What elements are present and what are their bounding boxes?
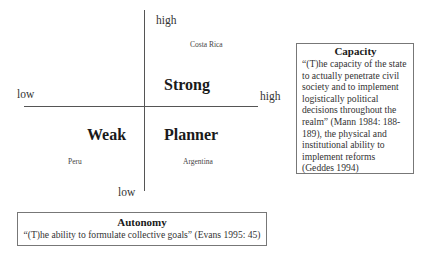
horizontal-axis-low-label: low (17, 88, 34, 100)
vertical-axis-high-label: high (156, 14, 176, 26)
autonomy-definition-text: “(T)he ability to formulate collective g… (22, 229, 262, 241)
horizontal-axis-line (24, 106, 258, 107)
capacity-title: Capacity (302, 45, 409, 58)
country-peru: Peru (68, 157, 82, 166)
vertical-axis-low-label: low (118, 186, 135, 198)
horizontal-axis-high-label: high (260, 90, 280, 102)
autonomy-title: Autonomy (22, 215, 262, 229)
quadrant-planner-label: Planner (164, 126, 218, 144)
quadrant-weak-label: Weak (87, 126, 126, 144)
country-argentina: Argentina (183, 157, 213, 166)
capacity-definition-box: Capacity “(T)he capacity of the state to… (296, 43, 414, 174)
vertical-axis-line (144, 10, 145, 191)
autonomy-definition-box: Autonomy “(T)he ability to formulate col… (17, 212, 267, 246)
capacity-definition-text: “(T)he capacity of the state to actually… (302, 58, 409, 174)
quadrant-strong-label: Strong (164, 76, 210, 94)
country-costa-rica: Costa Rica (190, 40, 223, 49)
